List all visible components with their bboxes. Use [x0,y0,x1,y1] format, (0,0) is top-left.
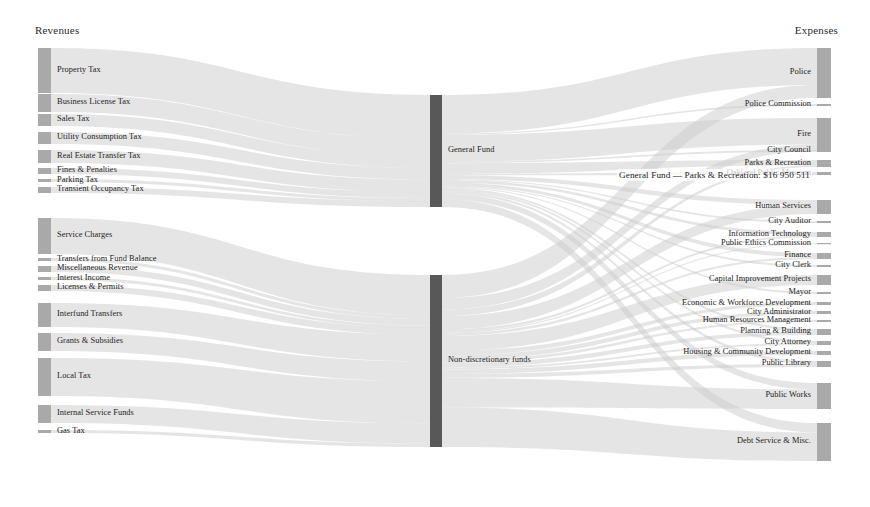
sankey-node[interactable] [817,265,831,267]
sankey-node[interactable] [817,150,831,152]
node-label: Parking Tax [57,176,98,184]
sankey-node[interactable] [38,266,51,272]
node-label: Public Ethics Commission [721,239,811,247]
sankey-node[interactable] [817,383,831,409]
sankey-node[interactable] [817,275,831,285]
sankey-node[interactable] [38,405,51,423]
node-label: Gas Tax [57,427,85,435]
sankey-node[interactable] [817,311,831,314]
sankey-node[interactable] [817,351,831,355]
revenues-column-title: Revenues [35,24,79,36]
node-label: Information Technology [729,230,811,238]
node-label: Interfund Transfers [57,310,122,318]
node-label: Property Tax [57,66,101,74]
sankey-node[interactable] [817,423,831,461]
sankey-node[interactable] [817,329,831,335]
node-label: Fire [797,130,811,138]
sankey-node[interactable] [38,285,51,291]
sankey-node[interactable] [38,333,51,351]
node-label: City Council [767,146,811,154]
node-label: Fines & Penalties [57,166,117,174]
node-label: Economic & Workforce Development [682,299,811,307]
node-label: Transfers from Fund Balance [57,255,156,263]
sankey-node[interactable] [38,277,51,280]
node-label: Debt Service & Misc. [737,437,811,445]
sankey-node[interactable] [817,48,831,98]
node-label: Grants & Subsidies [57,337,123,345]
sankey-node[interactable] [817,320,831,322]
sankey-node[interactable] [38,218,51,254]
node-label: Public Works [765,391,811,399]
link-tooltip: General Fund — Parks & Recreation: $16 9… [617,169,812,181]
sankey-node[interactable] [38,132,51,144]
node-label: Housing & Community Development [683,348,811,356]
sankey-node[interactable] [38,430,51,433]
node-label: City Attorney [765,338,811,346]
node-label: Planning & Building [740,327,811,335]
sankey-node[interactable] [38,179,51,182]
sankey-node[interactable] [38,258,51,261]
node-label: Non-discretionary funds [448,356,531,364]
sankey-node[interactable] [817,118,831,151]
sankey-node[interactable] [430,275,442,447]
node-label: Utility Consumption Tax [57,133,142,141]
sankey-node[interactable] [817,104,831,106]
node-label: Public Library [762,359,811,367]
sankey-node[interactable] [817,172,831,175]
sankey-node[interactable] [817,243,831,244]
sankey-node[interactable] [817,292,831,294]
sankey-node[interactable] [38,94,51,112]
expenses-column-title: Expenses [795,24,838,36]
node-label: Mayor [788,288,811,296]
node-label: General Fund [448,146,494,154]
node-label: Local Tax [57,372,91,380]
sankey-node[interactable] [817,221,831,223]
node-label: Miscellaneous Revenue [57,264,138,272]
sankey-node[interactable] [38,358,51,396]
sankey-node[interactable] [817,200,831,214]
node-label: Interest Income [57,274,110,282]
node-label: Police Commission [745,100,811,108]
sankey-node[interactable] [38,168,51,174]
sankey-node[interactable] [817,361,831,367]
node-label: Human Services [755,202,811,210]
sankey-chart: Revenues Expenses Property TaxBusiness L… [0,0,870,507]
sankey-node[interactable] [38,303,51,327]
node-label: Human Resources Management [703,316,811,324]
sankey-node[interactable] [817,302,831,305]
node-label: City Clerk [775,261,811,269]
sankey-node[interactable] [817,341,831,345]
sankey-node[interactable] [817,232,831,237]
sankey-node[interactable] [38,114,51,126]
node-label: Business License Tax [57,98,130,106]
sankey-node[interactable] [38,187,51,193]
node-label: Real Estate Transfer Tax [57,152,141,160]
node-label: Internal Service Funds [57,409,134,417]
node-label: City Auditor [768,217,811,225]
node-label: Sales Tax [57,115,90,123]
node-label: Police [790,68,811,76]
node-label: Transient Occupancy Tax [57,185,144,193]
sankey-node[interactable] [38,150,51,163]
sankey-node[interactable] [817,253,831,259]
sankey-node[interactable] [817,160,831,167]
node-label: Capital Improvement Projects [709,275,811,283]
node-label: Licenses & Permits [57,283,124,291]
node-label: Parks & Recreation [745,159,812,167]
sankey-node[interactable] [38,48,51,93]
sankey-node[interactable] [430,95,442,207]
node-label: Finance [784,251,811,259]
node-label: Service Charges [57,231,112,239]
